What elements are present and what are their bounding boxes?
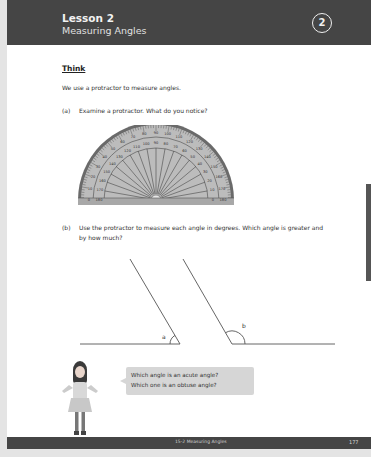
angle-label-b: b <box>242 322 246 329</box>
svg-text:100: 100 <box>164 132 172 136</box>
angle-label-a: a <box>162 333 166 340</box>
svg-text:160: 160 <box>99 179 107 183</box>
svg-text:20: 20 <box>207 179 212 183</box>
lesson-number: Lesson 2 <box>62 12 114 24</box>
svg-text:30: 30 <box>96 165 101 169</box>
svg-text:100: 100 <box>143 142 151 146</box>
svg-text:170: 170 <box>219 187 227 191</box>
svg-text:80: 80 <box>164 142 169 146</box>
page-number: 177 <box>349 439 359 445</box>
question-label: (a) <box>62 106 79 116</box>
svg-text:50: 50 <box>190 155 195 159</box>
svg-text:160: 160 <box>216 175 224 179</box>
textbook-page: Lesson 2 Measuring Angles 2 Think We use… <box>7 0 371 449</box>
question-label: (b) <box>62 223 79 233</box>
angles-diagram: a b <box>7 250 371 350</box>
svg-text:60: 60 <box>120 140 125 144</box>
svg-text:50: 50 <box>111 147 116 151</box>
speech-bubble: Which angle is an acute angle? Which one… <box>126 367 254 395</box>
footer-section-title: 15-2 Measuring Angles <box>175 439 227 444</box>
speech-line-1: Which angle is an acute angle? <box>131 370 254 380</box>
svg-text:180: 180 <box>220 198 228 202</box>
svg-text:40: 40 <box>102 155 107 159</box>
svg-text:150: 150 <box>211 165 219 169</box>
svg-text:110: 110 <box>133 145 141 149</box>
svg-text:110: 110 <box>175 135 183 139</box>
svg-text:120: 120 <box>186 140 194 144</box>
intro-text: We use a protractor to measure angles. <box>62 84 181 91</box>
question-b: (b)Use the protractor to measure each an… <box>62 223 329 243</box>
svg-text:70: 70 <box>131 135 136 139</box>
question-text: Examine a protractor. What do you notice… <box>79 106 329 116</box>
svg-text:80: 80 <box>142 132 147 136</box>
chapter-side-tab <box>366 184 371 281</box>
question-a: (a)Examine a protractor. What do you not… <box>62 106 329 116</box>
svg-text:90: 90 <box>154 141 159 145</box>
lesson-title: Measuring Angles <box>62 25 146 36</box>
svg-text:150: 150 <box>103 170 111 174</box>
lesson-badge: 2 <box>312 13 332 33</box>
svg-text:90: 90 <box>154 131 159 135</box>
svg-text:20: 20 <box>91 175 96 179</box>
svg-text:130: 130 <box>196 147 204 151</box>
girl-character-illustration <box>60 358 120 438</box>
speech-line-2: Which one is an obtuse angle? <box>131 380 254 390</box>
question-text: Use the protractor to measure each angle… <box>79 223 329 243</box>
protractor-image: 0102030405060708090100110120130140150160… <box>78 125 238 210</box>
svg-text:60: 60 <box>182 149 187 153</box>
svg-text:140: 140 <box>204 155 212 159</box>
svg-text:10: 10 <box>210 188 215 192</box>
section-heading: Think <box>62 64 85 73</box>
svg-text:120: 120 <box>124 149 132 153</box>
svg-text:140: 140 <box>109 162 117 166</box>
page-footer: 15-2 Measuring Angles 177 <box>7 437 371 449</box>
svg-text:40: 40 <box>197 162 202 166</box>
svg-text:70: 70 <box>173 145 178 149</box>
svg-text:180: 180 <box>96 198 104 202</box>
svg-text:130: 130 <box>116 155 124 159</box>
lesson-header: Lesson 2 Measuring Angles 2 <box>7 0 371 45</box>
svg-text:30: 30 <box>203 170 208 174</box>
svg-text:170: 170 <box>96 188 104 192</box>
svg-text:10: 10 <box>88 187 93 191</box>
